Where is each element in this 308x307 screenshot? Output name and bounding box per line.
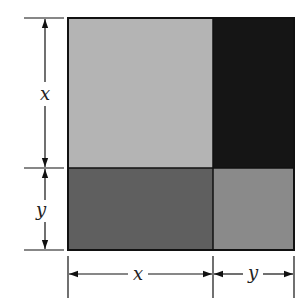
label-left-x: x	[40, 83, 50, 104]
region-top-right	[213, 18, 294, 168]
region-bottom-left	[68, 168, 213, 250]
region-x-by-x	[68, 18, 213, 168]
region-y-by-y	[213, 168, 294, 250]
label-left-y: y	[35, 199, 47, 220]
label-bottom-x: x	[133, 263, 143, 284]
label-bottom-y: y	[247, 262, 259, 283]
square-diagram: x y x y	[0, 0, 308, 307]
